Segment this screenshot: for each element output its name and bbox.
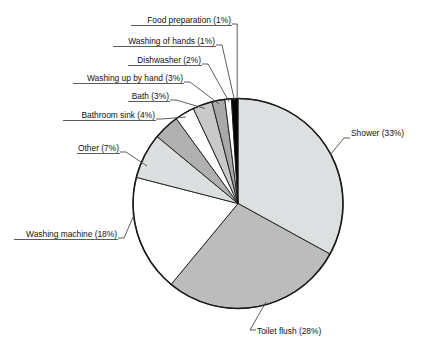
label-bath: Bath (3%): [132, 91, 169, 101]
leader-line-washing-of-hands: [216, 45, 235, 100]
pie-chart-canvas: Food preparation (1%) Washing of hands (…: [0, 0, 421, 357]
label-dishwasher: Dishwasher (2%): [137, 55, 201, 65]
label-other: Other (7%): [78, 143, 119, 153]
pie-slices-group: [133, 99, 343, 309]
leader-line-shower: [330, 138, 350, 155]
leader-line-bath: [170, 100, 205, 109]
label-washing-up-by-hand: Washing up by hand (3%): [87, 73, 183, 83]
label-shower: Shower (33%): [351, 128, 404, 138]
label-washing-machine: Washing machine (18%): [26, 229, 117, 239]
label-bathroom-sink: Bathroom sink (4%): [81, 110, 155, 120]
leader-line-dishwasher: [202, 64, 229, 102]
pie-chart-figure: Food preparation (1%) Washing of hands (…: [0, 0, 421, 357]
label-washing-of-hands: Washing of hands (1%): [128, 36, 215, 46]
leader-line-washing-machine: [118, 215, 134, 238]
label-toilet-flush: Toilet flush (28%): [257, 326, 321, 336]
leader-line-food-preparation: [232, 24, 237, 99]
label-food-preparation: Food preparation (1%): [147, 15, 231, 25]
